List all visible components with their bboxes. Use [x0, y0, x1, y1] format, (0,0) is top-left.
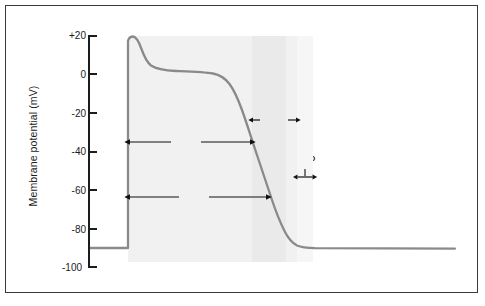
y-axis	[89, 35, 97, 268]
band-snp	[297, 36, 313, 262]
shaded-bands	[128, 36, 313, 262]
figure-container: Membrane potential (mV) +20 0 -20 -40 -6…	[0, 0, 485, 306]
action-potential-plot	[0, 0, 485, 306]
band-rrp-a	[252, 36, 286, 262]
band-rrp-b	[286, 36, 297, 262]
band-arp	[128, 36, 252, 262]
